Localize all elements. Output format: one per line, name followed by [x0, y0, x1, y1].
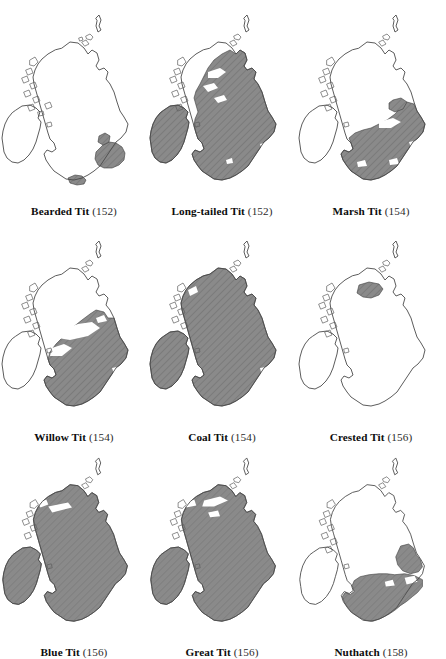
coastline-ireland [299, 331, 338, 389]
map-cell-blue-tit: Blue Tit (156) [0, 445, 148, 659]
coastline-ireland [300, 547, 339, 604]
coastline-orkney [82, 260, 93, 272]
range-shading [68, 133, 125, 185]
map-cell-long-tailed-tit: Long-tailed Tit (152) [148, 0, 296, 230]
map-coal-tit [148, 238, 296, 428]
species-name: Coal Tit [188, 431, 228, 443]
coastline-shetland [96, 241, 101, 258]
map-blue-tit [0, 455, 148, 643]
map-cell-willow-tit: Willow Tit (154) [0, 230, 148, 445]
coastline-shetland [244, 15, 249, 32]
map-cell-great-tit: Great Tit (156) [148, 445, 296, 659]
coastline-ireland [2, 331, 41, 389]
species-name: Crested Tit [330, 431, 385, 443]
map-cell-crested-tit: Crested Tit (156) [296, 230, 446, 445]
coastline-orkney [79, 34, 93, 46]
map-bearded-tit [0, 12, 148, 202]
coastline-great-britain [96, 15, 101, 32]
species-name: Great Tit [186, 646, 231, 658]
coastline-shetland [393, 241, 398, 258]
coastline-isle-of-man [47, 122, 52, 127]
coastline-ireland [299, 105, 338, 163]
coastline-ireland [2, 105, 41, 163]
coastline-orkney [230, 260, 241, 272]
map-great-tit [148, 455, 296, 643]
map-caption-long-tailed-tit: Long-tailed Tit (152) [171, 204, 272, 218]
species-name: Willow Tit [34, 431, 86, 443]
map-cell-coal-tit: Coal Tit (154) [148, 230, 296, 445]
coastline-isle-of-man [344, 122, 349, 127]
coastline-shetland [96, 458, 101, 475]
species-name: Long-tailed Tit [171, 205, 245, 217]
page-reference: (154) [231, 431, 256, 443]
range-shading [341, 98, 425, 180]
page-reference: (154) [385, 205, 410, 217]
map-cell-nuthatch: Nuthatch (158) [296, 445, 446, 659]
page-reference: (154) [89, 431, 114, 443]
coastline-isle-of-man [344, 564, 349, 569]
species-name: Nuthatch [334, 646, 380, 658]
species-name: Bearded Tit [31, 205, 89, 217]
coastline-orkney [82, 477, 93, 489]
coastline-shetland [244, 241, 249, 258]
coastline-shetland [393, 15, 398, 32]
map-long-tailed-tit [148, 12, 296, 202]
map-caption-blue-tit: Blue Tit (156) [41, 645, 108, 659]
map-nuthatch [297, 455, 445, 643]
species-name: Blue Tit [41, 646, 80, 658]
coastline-orkney [230, 477, 241, 489]
map-crested-tit [297, 238, 445, 428]
page-reference: (156) [234, 646, 259, 658]
map-cell-bearded-tit: Bearded Tit (152) [0, 0, 148, 230]
map-caption-nuthatch: Nuthatch (158) [334, 645, 407, 659]
page-reference: (158) [383, 646, 408, 658]
map-marsh-tit [297, 12, 445, 202]
coastline-shetland [244, 458, 249, 475]
page-reference: (156) [83, 646, 108, 658]
distribution-map-grid: Bearded Tit (152) [0, 0, 446, 659]
coastline-isle-of-man [344, 348, 349, 353]
page-reference: (152) [248, 205, 273, 217]
page-reference: (152) [92, 205, 117, 217]
range-shading [357, 282, 383, 298]
coastline-orkney [379, 477, 390, 489]
page-reference: (156) [388, 431, 413, 443]
map-caption-coal-tit: Coal Tit (154) [188, 430, 256, 444]
map-caption-marsh-tit: Marsh Tit (154) [333, 204, 410, 218]
range-shading [150, 50, 276, 180]
map-caption-crested-tit: Crested Tit (156) [330, 430, 413, 444]
range-shading [150, 268, 276, 406]
map-cell-marsh-tit: Marsh Tit (154) [296, 0, 446, 230]
map-willow-tit [0, 238, 148, 428]
map-caption-bearded-tit: Bearded Tit (152) [31, 204, 117, 218]
coastline-shetland [393, 458, 398, 475]
map-caption-great-tit: Great Tit (156) [186, 645, 259, 659]
coastline-orkney [379, 34, 390, 46]
coastline-orkney [230, 34, 241, 46]
map-caption-willow-tit: Willow Tit (154) [34, 430, 113, 444]
coastline-orkney [379, 260, 390, 272]
species-name: Marsh Tit [333, 205, 382, 217]
